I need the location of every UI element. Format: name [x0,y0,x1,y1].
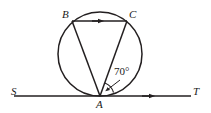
point-label-t: T [193,86,199,97]
point-label-s: S [11,86,17,97]
angle-measure-label: 70° [114,66,129,77]
geometry-figure: B C A S T 70° [0,0,211,113]
point-label-b: B [62,9,69,20]
circle-outline [58,12,142,96]
point-label-a: A [96,99,103,110]
geometry-canvas [0,0,211,113]
chord-ab [72,21,100,96]
point-label-c: C [129,9,136,20]
